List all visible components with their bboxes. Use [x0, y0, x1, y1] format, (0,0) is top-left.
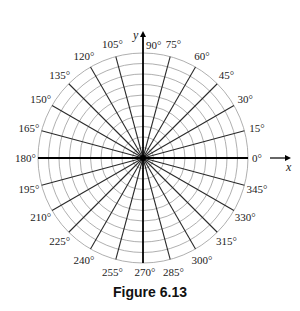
- radial-line: [143, 106, 234, 159]
- radial-line: [143, 67, 196, 158]
- radial-line: [143, 158, 234, 211]
- angle-label: 300°: [192, 254, 213, 266]
- radial-line: [116, 158, 143, 259]
- polar-grid: xy 0°15°30°45°60°75°90°105°120°135°150°1…: [0, 0, 300, 311]
- angle-label: 60°: [194, 50, 209, 62]
- y-axis-label: y: [132, 28, 139, 42]
- angle-label: 165°: [19, 122, 40, 134]
- radial-line: [143, 57, 170, 158]
- angle-label: 105°: [102, 38, 123, 50]
- angle-label: 210°: [30, 211, 51, 223]
- radial-line: [143, 158, 170, 259]
- radial-line: [42, 158, 143, 185]
- radial-line: [52, 158, 143, 211]
- angle-label: 225°: [49, 235, 70, 247]
- radial-line: [143, 158, 244, 185]
- radial-line: [91, 158, 144, 249]
- angle-label: 150°: [30, 93, 51, 105]
- y-arrowhead-icon: [140, 31, 146, 37]
- angle-label: 120°: [74, 50, 95, 62]
- angle-label: 255°: [102, 266, 123, 278]
- origin-point: [140, 155, 146, 161]
- angle-label: 0°: [252, 152, 262, 164]
- angle-label: 270°: [135, 266, 156, 278]
- radial-line: [91, 67, 144, 158]
- angle-label: 135°: [49, 69, 70, 81]
- angle-label: 180°: [15, 152, 36, 164]
- angle-label: 285°: [163, 266, 184, 278]
- angle-label: 345°: [247, 183, 268, 195]
- radial-line: [116, 57, 143, 158]
- radial-line: [143, 158, 196, 249]
- angle-label: 240°: [74, 254, 95, 266]
- angle-label: 15°: [249, 122, 264, 134]
- angle-label: 315°: [216, 235, 237, 247]
- angle-label: 45°: [219, 69, 234, 81]
- angle-label: 330°: [235, 211, 256, 223]
- x-axis-label: x: [285, 160, 292, 174]
- angle-label: 75°: [166, 38, 181, 50]
- radial-line: [52, 106, 143, 159]
- radial-line: [42, 131, 143, 158]
- radial-line: [143, 131, 244, 158]
- angle-label: 90°: [146, 39, 161, 51]
- angle-label: 30°: [237, 93, 252, 105]
- figure-caption: Figure 6.13: [0, 284, 300, 300]
- angle-label: 195°: [19, 183, 40, 195]
